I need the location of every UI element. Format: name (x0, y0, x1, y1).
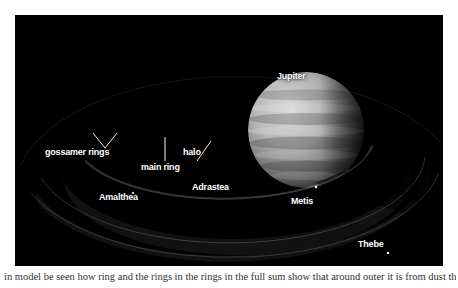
caption-strip: in model be seen how ring and the rings … (0, 272, 458, 288)
caption-text: in model be seen how ring and the rings … (4, 272, 456, 283)
label-thebe: Thebe (358, 240, 384, 249)
label-amalthea: Amalthea (99, 193, 138, 202)
label-main-ring: main ring (141, 163, 180, 172)
moon-dot-metis (315, 186, 318, 189)
label-gossamer-rings: gossamer rings (45, 148, 109, 157)
label-adrastea: Adrastea (192, 183, 229, 192)
label-jupiter: Jupiter (277, 72, 306, 81)
label-metis: Metis (291, 197, 313, 206)
figure-page: Jupiter gossamer rings main ring halo Am… (0, 0, 458, 288)
moon-dot-thebe (387, 252, 390, 255)
label-halo: halo (183, 148, 201, 157)
ring-system-illustration (15, 15, 443, 266)
jupiter-globe (248, 72, 364, 188)
jupiter-ring-diagram-panel: Jupiter gossamer rings main ring halo Am… (15, 15, 443, 266)
